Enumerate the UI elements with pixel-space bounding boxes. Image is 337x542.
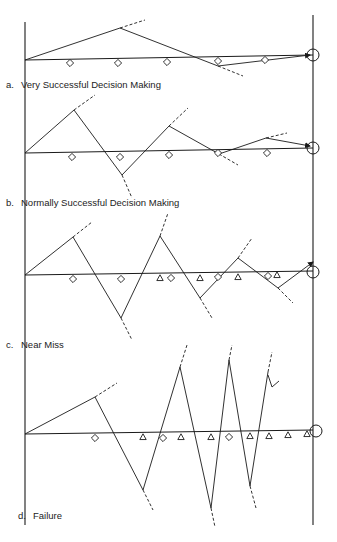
panel-d xyxy=(25,345,322,527)
diamond-marker-icon xyxy=(163,58,170,65)
triangle-marker-icon xyxy=(304,431,310,437)
axes xyxy=(25,15,313,525)
dashed-extension xyxy=(211,508,215,527)
panel-d-title: Failure xyxy=(33,510,62,521)
dashed-extension xyxy=(74,95,95,110)
panel-a-letter: a. xyxy=(6,80,21,90)
panel-d-letter: d. xyxy=(18,511,33,521)
triangle-marker-icon xyxy=(208,434,214,440)
diamond-marker-icon xyxy=(167,274,174,281)
panel-a-title: Very Successful Decision Making xyxy=(21,79,161,90)
dashed-extension xyxy=(180,345,187,367)
panel-a xyxy=(25,20,319,76)
panel-c-title: Near Miss xyxy=(21,339,64,350)
dashed-extension xyxy=(121,318,132,340)
panel-a-label: a.Very Successful Decision Making xyxy=(6,80,161,90)
dashed-extension xyxy=(160,213,168,236)
diamond-marker-icon xyxy=(225,433,232,440)
diamond-marker-icon xyxy=(214,273,221,280)
diamond-marker-icon xyxy=(214,149,221,156)
triangle-marker-icon xyxy=(140,434,146,440)
dashed-extension xyxy=(268,352,272,372)
panels xyxy=(25,20,322,527)
dashed-extension xyxy=(250,486,256,508)
dashed-extension xyxy=(278,288,293,303)
diamond-marker-icon xyxy=(263,149,270,156)
diamond-marker-icon xyxy=(165,151,172,158)
dashed-extension xyxy=(73,222,92,237)
dashed-extension xyxy=(238,238,252,258)
diamond-marker-icon xyxy=(68,153,75,160)
dashed-extension xyxy=(120,20,145,28)
panel-c-letter: c. xyxy=(6,340,21,350)
dashed-extension xyxy=(200,298,212,318)
dashed-extension xyxy=(266,133,287,138)
triangle-marker-icon xyxy=(285,432,291,438)
target-circle-icon xyxy=(310,425,322,437)
triangle-marker-icon xyxy=(235,274,241,280)
diamond-marker-icon xyxy=(66,59,73,66)
handwritten-check-icon xyxy=(268,375,279,387)
diamond-marker-icon xyxy=(91,434,98,441)
trajectory-line xyxy=(25,360,268,508)
diamond-marker-icon xyxy=(116,153,123,160)
diamond-marker-icon xyxy=(114,59,121,66)
baseline xyxy=(25,55,313,60)
dashed-extension xyxy=(218,66,243,76)
diamond-marker-icon xyxy=(261,56,268,63)
triangle-marker-icon xyxy=(266,433,272,439)
diamond-marker-icon xyxy=(69,275,76,282)
triangle-marker-icon xyxy=(178,434,184,440)
panel-d-label: d.Failure xyxy=(18,511,62,521)
triangle-marker-icon xyxy=(197,275,203,281)
dashed-extension xyxy=(143,490,153,510)
triangle-marker-icon xyxy=(157,275,163,281)
triangle-marker-icon xyxy=(247,433,253,439)
dashed-extension xyxy=(169,108,188,126)
diamond-marker-icon xyxy=(117,275,124,282)
dashed-extension xyxy=(219,154,238,165)
diamond-marker-icon xyxy=(159,434,166,441)
panel-b-letter: b. xyxy=(6,198,21,208)
panel-c-label: c.Near Miss xyxy=(6,340,64,350)
panel-c xyxy=(25,213,319,340)
dashed-extension xyxy=(229,345,232,360)
diamond-marker-icon xyxy=(214,57,221,64)
dashed-extension xyxy=(122,175,132,198)
panel-b-title: Normally Successful Decision Making xyxy=(21,197,179,208)
triangle-marker-icon xyxy=(274,272,280,278)
panel-b-label: b.Normally Successful Decision Making xyxy=(6,198,179,208)
dashed-extension xyxy=(95,383,117,397)
panel-b xyxy=(25,95,319,198)
trajectory-line xyxy=(25,110,310,175)
